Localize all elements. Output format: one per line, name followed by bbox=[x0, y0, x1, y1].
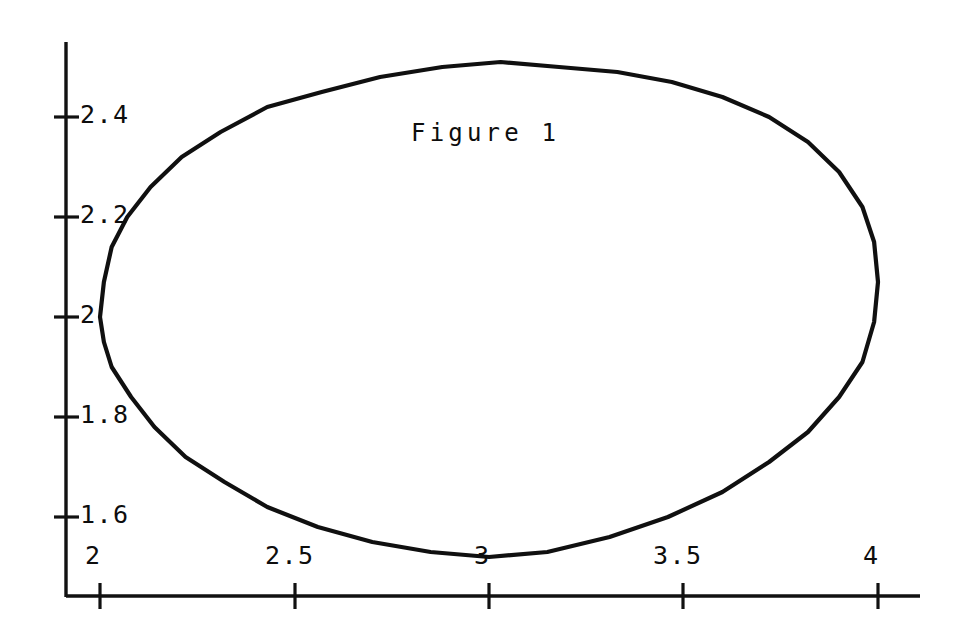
x-tick-label-4: 4 bbox=[863, 543, 880, 568]
y-tick-label-1.8: 1.8 bbox=[80, 402, 130, 427]
y-tick-label-2.2: 2.2 bbox=[80, 202, 130, 227]
x-tick-label-3: 3 bbox=[474, 543, 491, 568]
figure-canvas: 2.4 2.2 2 1.8 1.6 2 2.5 3 3.5 4 Figure 1 bbox=[0, 0, 966, 636]
y-tick-label-1.6: 1.6 bbox=[80, 502, 130, 527]
y-tick-label-2.4: 2.4 bbox=[80, 102, 130, 127]
figure-caption: Figure 1 bbox=[411, 121, 560, 145]
x-tick-label-3.5: 3.5 bbox=[653, 543, 703, 568]
x-tick-label-2: 2 bbox=[85, 543, 102, 568]
x-tick-label-2.5: 2.5 bbox=[265, 543, 315, 568]
y-tick-label-2: 2 bbox=[80, 302, 97, 327]
